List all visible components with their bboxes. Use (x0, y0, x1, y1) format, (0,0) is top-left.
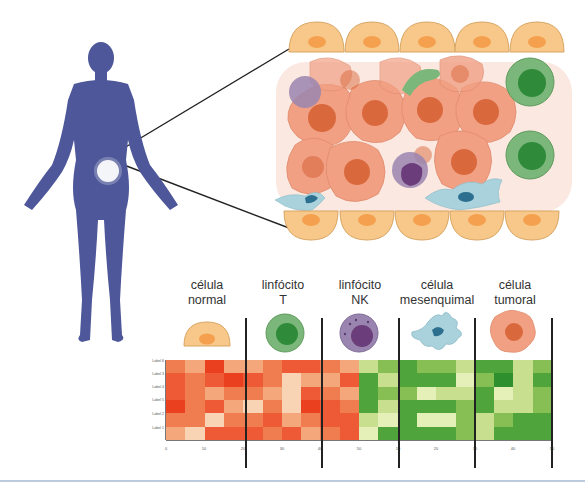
heatmap-cell (320, 413, 340, 427)
epithelial-cells-bottom (284, 211, 559, 240)
heatmap-cell (513, 413, 533, 427)
heatmap-cell (456, 413, 476, 427)
heatmap-cell (436, 360, 456, 374)
heatmap-cell (282, 360, 302, 374)
row-label: Label 6 (152, 359, 164, 363)
heatmap-cell (185, 373, 205, 387)
heatmap-cell (494, 413, 514, 427)
heatmap-cell (224, 400, 244, 414)
heatmap-cell (456, 387, 476, 401)
heatmap-cell (185, 387, 205, 401)
row-label: Label 3 (152, 372, 164, 376)
heatmap-cell (417, 400, 437, 414)
heatmap-cell (359, 400, 379, 414)
heatmap-cell (185, 400, 205, 414)
heatmap-cell (205, 387, 225, 401)
heatmap-cell (436, 387, 456, 401)
heatmap-cell (224, 427, 244, 441)
heatmap-cell (533, 360, 553, 374)
heatmap-cell (301, 413, 321, 427)
heatmap-cell (263, 427, 283, 441)
heatmap-cell (320, 373, 340, 387)
heatmap-cell (340, 400, 360, 414)
heatmap-cell (185, 360, 205, 374)
normal-cell-icon (184, 322, 230, 346)
heatmap-cell (340, 373, 360, 387)
heatmap-cell (456, 360, 476, 374)
heatmap-cell (359, 360, 379, 374)
group-divider (245, 318, 247, 468)
heatmap-cell (436, 400, 456, 414)
heatmap-cell (513, 387, 533, 401)
heatmap-cell (378, 413, 398, 427)
heatmap-cell (320, 387, 340, 401)
x-axis-line (166, 440, 552, 441)
heatmap-cell (398, 400, 418, 414)
heatmap-cell (224, 387, 244, 401)
label-line: célula (392, 278, 482, 293)
heatmap-cell (166, 427, 186, 441)
heatmap-grid (166, 360, 552, 440)
x-tick: 0 (165, 446, 167, 451)
heatmap-cell (494, 387, 514, 401)
mesenchymal-cell-icon (412, 312, 462, 349)
heatmap-cell (475, 373, 495, 387)
heatmap-cell (166, 387, 186, 401)
heatmap-cell (533, 373, 553, 387)
t-lymphocyte-icon (266, 314, 304, 352)
heatmap-cell (340, 427, 360, 441)
heatmap-cell (533, 387, 553, 401)
heatmap-cell (320, 400, 340, 414)
heatmap-cell (166, 413, 186, 427)
heatmap-cell (456, 400, 476, 414)
heatmap-cell (456, 373, 476, 387)
heatmap-cell (475, 413, 495, 427)
group-divider (474, 318, 476, 468)
heatmap-cell (494, 427, 514, 441)
heatmap-row-labels: Label 6 Label 3 Label 4 Label 5 Label 2 … (140, 360, 164, 440)
heatmap-cell (301, 387, 321, 401)
heatmap-cell (282, 373, 302, 387)
heatmap-cell (436, 427, 456, 441)
heatmap-cell (398, 373, 418, 387)
heatmap-cell (378, 427, 398, 441)
heatmap-cell (340, 387, 360, 401)
heatmap-cell (456, 427, 476, 441)
group-divider (551, 318, 553, 468)
heatmap-cell (533, 427, 553, 441)
heatmap-cell (205, 413, 225, 427)
heatmap-cell (494, 373, 514, 387)
heatmap-cell (301, 373, 321, 387)
heatmap-cell (205, 427, 225, 441)
heatmap-cell (398, 413, 418, 427)
epithelial-cells-top (289, 22, 564, 52)
x-tick: 10 (202, 446, 206, 451)
heatmap-cell (320, 427, 340, 441)
heatmap-cell (359, 413, 379, 427)
heatmap-cell (533, 413, 553, 427)
group-divider (321, 318, 323, 468)
heatmap-cell (513, 373, 533, 387)
heatmap-cell (417, 387, 437, 401)
heatmap-cell (263, 387, 283, 401)
heatmap-cell (436, 373, 456, 387)
heatmap-cell (301, 400, 321, 414)
heatmap-cell (359, 373, 379, 387)
heatmap-cell (494, 400, 514, 414)
heatmap-cell (533, 400, 553, 414)
heatmap-cell (224, 413, 244, 427)
heatmap-cell (224, 373, 244, 387)
heatmap-cell (436, 413, 456, 427)
heatmap-cell (475, 427, 495, 441)
heatmap-cell (205, 360, 225, 374)
x-tick: 30 (280, 446, 284, 451)
y-axis-line (165, 360, 166, 440)
tumor-cell-icon (490, 310, 535, 352)
heatmap-cell (378, 373, 398, 387)
heatmap-cell (475, 387, 495, 401)
heatmap-cell (417, 360, 437, 374)
heatmap-cell (263, 360, 283, 374)
heatmap-cell (282, 413, 302, 427)
heatmap-cell (417, 373, 437, 387)
heatmap-cell (282, 387, 302, 401)
